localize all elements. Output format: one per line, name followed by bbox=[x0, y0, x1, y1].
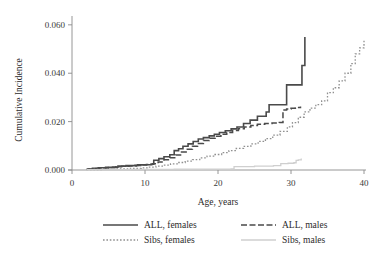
x-axis-title: Age, years bbox=[198, 197, 239, 207]
x-tick-label: 30 bbox=[287, 178, 297, 188]
legend-label: ALL, females bbox=[144, 220, 197, 230]
x-tick-label: 40 bbox=[360, 178, 370, 188]
y-axis-title: Cumulative Incidence bbox=[14, 58, 24, 142]
x-tick-label: 10 bbox=[141, 178, 151, 188]
y-tick-label: 0.000 bbox=[45, 165, 66, 175]
chart-background bbox=[0, 0, 387, 256]
x-tick-label: 0 bbox=[70, 178, 75, 188]
y-tick-label: 0.060 bbox=[45, 20, 66, 30]
legend-label: Sibs, females bbox=[144, 235, 195, 245]
legend-label: Sibs, males bbox=[282, 235, 326, 245]
legend-label: ALL, males bbox=[282, 220, 328, 230]
y-tick-label: 0.040 bbox=[45, 68, 66, 78]
chart-svg: 0.0000.0200.0400.060 010203040 Cumulativ… bbox=[0, 0, 387, 256]
y-tick-label: 0.020 bbox=[45, 117, 66, 127]
x-tick-label: 20 bbox=[214, 178, 224, 188]
cumulative-incidence-chart: 0.0000.0200.0400.060 010203040 Cumulativ… bbox=[0, 0, 387, 256]
